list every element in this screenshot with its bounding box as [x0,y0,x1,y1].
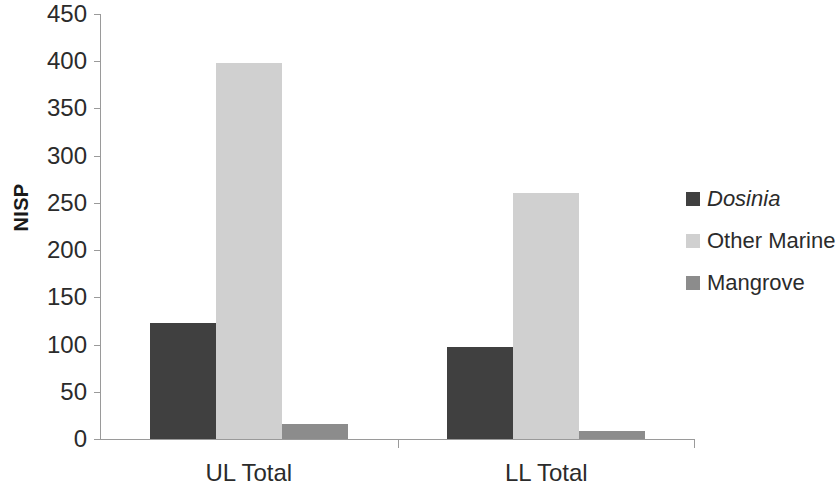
x-axis-category-label: LL Total [446,458,646,483]
y-axis-tick-label: 400 [17,46,87,76]
x-axis-category-label: UL Total [149,458,349,483]
legend-swatch-icon [686,234,700,248]
legend-item-label: Mangrove [707,270,805,296]
y-axis-tick-label: 250 [17,188,87,218]
bar [150,323,216,439]
y-axis-tick-label: 150 [17,282,87,312]
legend: DosiniaOther MarineMangrove [686,178,837,304]
y-axis-tick-label: 200 [17,235,87,265]
bar [216,63,282,439]
legend-swatch-icon [686,192,700,206]
legend-swatch-icon [686,276,700,290]
bar-chart: NISP 050100150200250300350400450 UL Tota… [0,0,837,483]
y-axis-tick-label: 300 [17,141,87,171]
legend-item-label: Other Marine [707,228,835,254]
plot-area: 050100150200250300350400450 UL TotalLL T… [100,14,695,439]
legend-item-label: Dosinia [707,186,780,212]
bars-layer [100,14,695,439]
bar [447,347,513,439]
y-axis-tick-mark [94,439,100,440]
bar [513,193,579,439]
legend-item: Dosinia [686,178,837,220]
y-axis-tick-label: 0 [17,424,87,454]
y-axis-tick-label: 50 [17,377,87,407]
y-axis-tick-label: 100 [17,330,87,360]
legend-item: Other Marine [686,220,837,262]
bar [579,431,645,440]
y-axis-tick-label: 450 [17,0,87,29]
x-axis-end-tick [694,439,695,448]
y-axis-tick-label: 350 [17,93,87,123]
x-axis-category-divider [398,439,399,448]
legend-item: Mangrove [686,262,837,304]
bar [282,424,348,439]
